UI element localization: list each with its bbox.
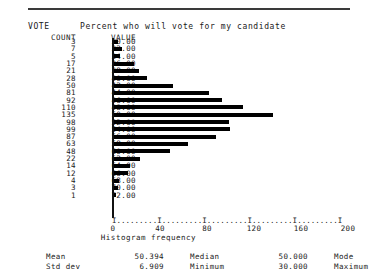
stat-label: Mean: [46, 252, 108, 262]
x-tick-label: 80: [202, 224, 212, 233]
histogram-bar: [114, 98, 222, 102]
x-axis-label-wrap: Histogram frequency: [0, 233, 373, 242]
stat-row: Mean50.394Median50.000Mode50.000: [46, 252, 373, 262]
stat-value: 6.909: [108, 262, 164, 272]
x-tick-label: 120: [247, 224, 261, 233]
count-cell: 1: [28, 192, 76, 199]
page-title-row: VOTEPercent who will vote for my candida…: [28, 22, 286, 31]
count-cell: 7: [28, 45, 76, 52]
variable-label: VOTE: [28, 22, 80, 31]
stat-label: Maximum: [334, 262, 373, 272]
histogram-bar: [114, 149, 170, 153]
histogram-bar: [114, 171, 128, 175]
histogram-bar: [114, 157, 140, 161]
x-tick-label: 160: [294, 224, 308, 233]
histogram-bar: [114, 193, 116, 197]
histogram-bar: [114, 127, 230, 131]
histogram-bar: [114, 84, 173, 88]
histogram-bar: [114, 164, 130, 168]
histogram-bar: [114, 135, 216, 139]
stat-label: Mode: [334, 252, 373, 262]
histogram-bar: [114, 142, 188, 146]
histogram-bar: [114, 76, 147, 80]
histogram-bar: [114, 40, 118, 44]
count-cell: 4: [28, 177, 76, 184]
x-axis-label: Histogram frequency: [101, 233, 196, 242]
count-cell: 12: [28, 170, 76, 177]
stat-row: Std dev6.909Minimum30.000Maximum72.000: [46, 262, 373, 272]
value-cell: 72.00: [84, 192, 136, 199]
x-tick-label: 200: [341, 224, 355, 233]
summary-statistics: Mean50.394Median50.000Mode50.000Std dev6…: [46, 252, 373, 271]
histogram-bar: [114, 105, 243, 109]
header-rule: [28, 8, 350, 10]
stat-label: Minimum: [190, 262, 252, 272]
stat-value: 30.000: [252, 262, 308, 272]
y-axis-line: [112, 38, 114, 218]
count-cell: 3: [28, 184, 76, 191]
histogram-bar: [114, 91, 209, 95]
histogram-bar: [114, 113, 273, 117]
histogram-bar: [114, 179, 119, 183]
histogram-bar: [114, 69, 139, 73]
histogram-bar: [114, 47, 122, 51]
stat-label: Median: [190, 252, 252, 262]
x-tick-label: 0: [111, 224, 116, 233]
count-cell: 3: [28, 38, 76, 45]
histogram-bar: [114, 62, 134, 66]
stat-value: 50.394: [108, 252, 164, 262]
x-tick-label: 40: [155, 224, 165, 233]
histogram-bar: [114, 186, 118, 190]
stat-value: 50.000: [252, 252, 308, 262]
histogram-bar: [114, 120, 229, 124]
histogram-bar: [114, 54, 120, 58]
histogram-plot: 330.00732.00534.001736.002138.002840.005…: [0, 38, 373, 220]
stat-label: Std dev: [46, 262, 108, 272]
page-title: Percent who will vote for my candidate: [80, 22, 286, 31]
